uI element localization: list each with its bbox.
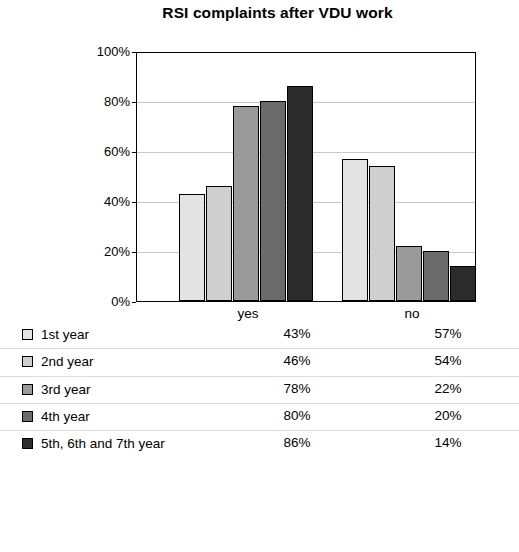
legend-swatch-icon — [22, 384, 33, 395]
legend-label: 4th year — [41, 408, 90, 425]
legend-entry-1st-year[interactable]: 1st year — [0, 322, 217, 349]
legend-label: 1st year — [41, 326, 89, 343]
table-row: 2nd year 46% 54% — [0, 349, 519, 376]
legend-label: 3rd year — [41, 381, 91, 398]
table-row: 5th, 6th and 7th year 86% 14% — [0, 431, 519, 458]
chart-title: RSI complaints after VDU work — [0, 4, 519, 22]
legend-entry-5th-6th-7th-year[interactable]: 5th, 6th and 7th year — [0, 431, 217, 458]
cell-no-1st-year: 57% — [377, 322, 519, 349]
cell-no-5th-6th-7th-year: 14% — [377, 431, 519, 458]
legend-entry-2nd-year[interactable]: 2nd year — [0, 349, 217, 376]
cell-yes-2nd-year: 46% — [217, 349, 377, 376]
cell-no-2nd-year: 54% — [377, 349, 519, 376]
y-tickmark-0 — [132, 302, 136, 303]
bar-group-yes — [179, 53, 319, 301]
y-tick-label-60: 60% — [72, 144, 130, 159]
legend-data-table: 1st year 43% 57% 2nd year 46% 54% 3rd ye… — [0, 322, 519, 457]
bar-yes-5th-6th-7th-year[interactable] — [287, 86, 313, 301]
legend-swatch-icon — [22, 356, 33, 367]
y-tick-label-20: 20% — [72, 244, 130, 259]
bar-group-no — [342, 53, 482, 301]
y-tick-label-80: 80% — [72, 94, 130, 109]
bar-no-1st-year[interactable] — [342, 159, 368, 302]
y-tick-label-0: 0% — [72, 294, 130, 309]
legend-entry-4th-year[interactable]: 4th year — [0, 403, 217, 430]
table-row: 4th year 80% 20% — [0, 403, 519, 430]
x-tick-label-no: no — [352, 306, 472, 321]
bar-yes-1st-year[interactable] — [179, 194, 205, 302]
table-row: 3rd year 78% 22% — [0, 376, 519, 403]
bar-yes-3rd-year[interactable] — [233, 106, 259, 301]
legend-entry-3rd-year[interactable]: 3rd year — [0, 376, 217, 403]
legend-label: 5th, 6th and 7th year — [41, 435, 165, 452]
cell-yes-1st-year: 43% — [217, 322, 377, 349]
cell-no-4th-year: 20% — [377, 403, 519, 430]
legend-swatch-icon — [22, 329, 33, 340]
legend-swatch-icon — [22, 438, 33, 449]
x-tick-label-yes: yes — [188, 306, 308, 321]
cell-no-3rd-year: 22% — [377, 376, 519, 403]
legend-label: 2nd year — [41, 353, 94, 370]
y-tick-label-100: 100% — [72, 44, 130, 59]
bar-no-5th-6th-7th-year[interactable] — [450, 266, 476, 301]
cell-yes-3rd-year: 78% — [217, 376, 377, 403]
legend-swatch-icon — [22, 411, 33, 422]
plot-wrapper: 100% 80% 60% 40% 20% 0% — [0, 40, 519, 310]
table-row: 1st year 43% 57% — [0, 322, 519, 349]
bar-yes-4th-year[interactable] — [260, 101, 286, 301]
cell-yes-4th-year: 80% — [217, 403, 377, 430]
bar-yes-2nd-year[interactable] — [206, 186, 232, 301]
bar-no-2nd-year[interactable] — [369, 166, 395, 301]
plot-area — [136, 52, 476, 302]
bar-no-3rd-year[interactable] — [396, 246, 422, 301]
y-tick-label-40: 40% — [72, 194, 130, 209]
bar-no-4th-year[interactable] — [423, 251, 449, 301]
cell-yes-5th-6th-7th-year: 86% — [217, 431, 377, 458]
chart-figure: RSI complaints after VDU work 100% 80% 6… — [0, 0, 519, 552]
